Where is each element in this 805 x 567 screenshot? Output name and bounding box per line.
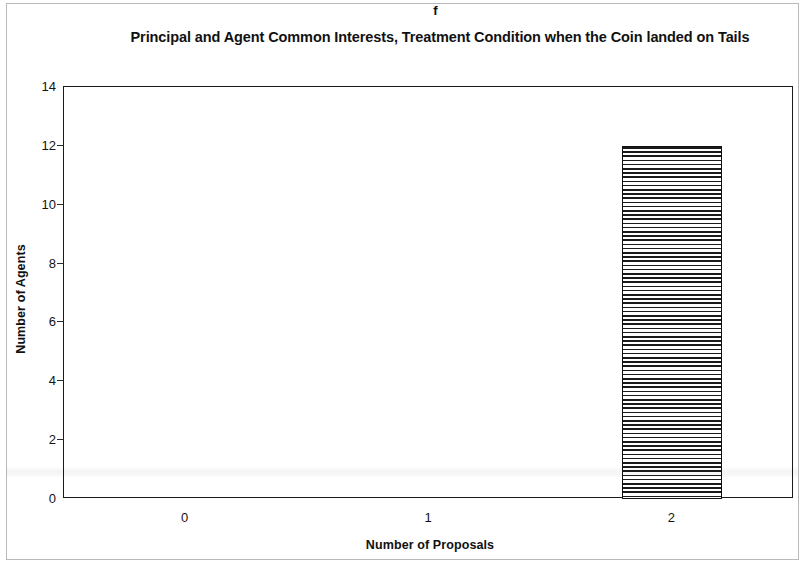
x-axis-title: Number of Proposals [0, 538, 805, 552]
y-tick-mark [57, 204, 64, 205]
y-tick-label: 0 [16, 491, 56, 506]
y-tick-mark [57, 321, 64, 322]
x-tick-label: 1 [388, 510, 468, 525]
y-tick-label: 14 [16, 79, 56, 94]
y-axis-tick-labels: 02468101214 [12, 86, 56, 498]
y-tick-label: 10 [16, 196, 56, 211]
y-tick-label: 2 [16, 432, 56, 447]
y-tick-mark [57, 439, 64, 440]
x-tick-label: 0 [145, 510, 225, 525]
y-tick-label: 12 [16, 137, 56, 152]
panel-label-text: f [433, 3, 438, 18]
y-tick-mark [57, 145, 64, 146]
y-tick-label: 6 [16, 314, 56, 329]
y-tick-mark [57, 263, 64, 264]
plot-inner [64, 87, 792, 497]
bar-2 [622, 146, 722, 499]
x-tick-label: 2 [631, 510, 711, 525]
y-tick-mark [57, 380, 64, 381]
y-tick-label: 8 [16, 255, 56, 270]
x-axis-title-text: Number of Proposals [366, 538, 494, 552]
chart-title: Principal and Agent Common Interests, Tr… [120, 27, 760, 48]
y-tick-label: 4 [16, 373, 56, 388]
scanned-page: f Principal and Agent Common Interests, … [0, 0, 805, 567]
panel-label: f [0, 3, 805, 18]
plot-area [63, 86, 793, 498]
